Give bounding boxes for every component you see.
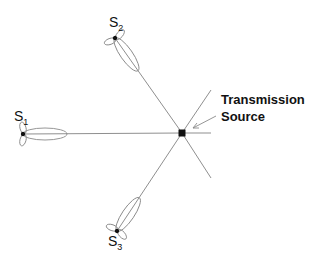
s2-label: S2 [109,14,123,33]
diagram-svg: S2 S1 S3 Transmission Source [0,0,318,258]
s3-label: S3 [108,233,122,252]
s1-node [21,132,25,136]
source-pointer-arrow [193,116,216,128]
ray-to-s2 [115,38,182,133]
ray-to-s1 [23,133,182,134]
s2-node [112,35,118,41]
transmission-source-label-line2: Source [221,109,265,124]
diagram-canvas: S2 S1 S3 Transmission Source [0,0,318,258]
transmission-source-label-line1: Transmission [221,92,305,107]
transmission-source-node [179,130,186,137]
ray-stub-lower-right [182,133,211,178]
s1-label: S1 [14,108,28,127]
ray-to-s3 [117,133,182,231]
